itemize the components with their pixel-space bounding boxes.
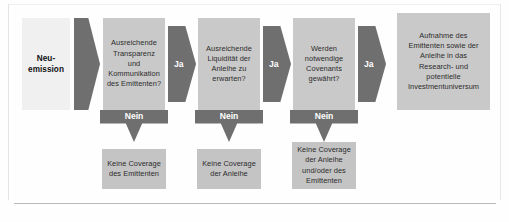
decision-node-transparenz-label: Ausreichende Transparenz und Kommunikati…	[106, 38, 162, 89]
frame-right-border	[500, 4, 501, 200]
connector-arrow-ja-transparenz: Ja	[168, 26, 196, 102]
start-node-label: Neu- emission	[28, 53, 64, 76]
outcome-node-keine-coverage-beide-label: Keine Coverage der Anleihe und/oder des …	[297, 145, 351, 186]
frame-left-border	[8, 4, 9, 200]
decision-node-covenants-label: Werden notwendige Covenants gewährt?	[305, 44, 343, 85]
decision-node-liquiditaet-label: Ausreichende Liquidität der Anleihe zu e…	[206, 44, 252, 85]
decision-node-covenants: Werden notwendige Covenants gewährt?	[293, 18, 355, 110]
outcome-node-keine-coverage-beide: Keine Coverage der Anleihe und/oder des …	[292, 142, 356, 189]
connector-arrow-ja-liquiditaet-label: Ja	[269, 59, 279, 69]
connector-arrow-ja-transparenz-label: Ja	[174, 59, 184, 69]
bottom-divider-rule	[14, 203, 496, 204]
result-node-label: Aufnahme des Emittenten sowie der Anleih…	[408, 31, 479, 92]
connector-arrow-nein-covenants: Nein	[290, 110, 358, 142]
decision-node-liquiditaet: Ausreichende Liquidität der Anleihe zu e…	[198, 18, 260, 110]
outcome-node-keine-coverage-emittent-label: Keine Coverage des Emittenten	[107, 159, 161, 179]
connector-arrow-nein-covenants-label: Nein	[315, 111, 334, 121]
connector-arrow-nein-transparenz: Nein	[100, 110, 168, 142]
connector-arrow-ja-liquiditaet: Ja	[263, 26, 291, 102]
connector-arrow-ja-covenants-label: Ja	[364, 59, 374, 69]
connector-arrow-nein-transparenz-label: Nein	[125, 111, 144, 121]
connector-arrow-nein-liquiditaet-label: Nein	[220, 111, 239, 121]
frame-top-border	[8, 4, 501, 5]
connector-arrow-nein-liquiditaet: Nein	[195, 110, 263, 142]
outcome-node-keine-coverage-emittent: Keine Coverage des Emittenten	[102, 149, 166, 189]
flowchart-canvas: Neu- emission Ausreichende Transparenz u…	[0, 0, 509, 222]
outcome-node-keine-coverage-anleihe-label: Keine Coverage der Anleihe	[202, 159, 256, 179]
decision-node-transparenz: Ausreichende Transparenz und Kommunikati…	[103, 18, 165, 110]
outcome-node-keine-coverage-anleihe: Keine Coverage der Anleihe	[197, 149, 261, 189]
connector-arrow-ja-covenants: Ja	[358, 26, 386, 102]
connector-arrow-start-to-transparenz	[74, 18, 100, 110]
start-node-neuemission: Neu- emission	[22, 18, 70, 110]
result-node-aufnahme: Aufnahme des Emittenten sowie der Anleih…	[397, 13, 490, 110]
